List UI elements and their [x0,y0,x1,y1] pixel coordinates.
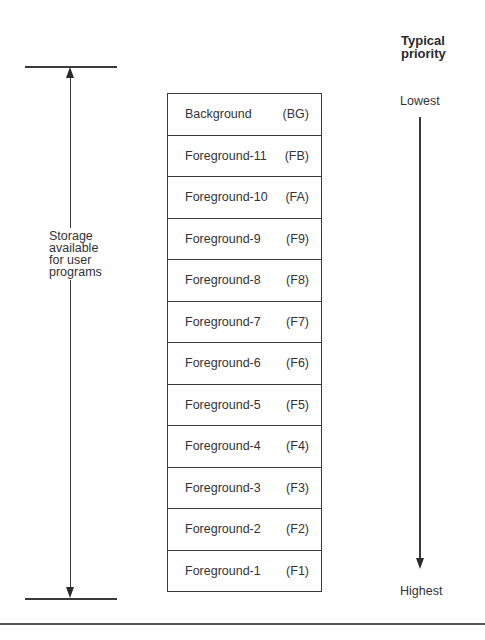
partition-name: Foreground-9 [185,232,261,246]
partition-code: (F3) [286,481,309,495]
priority-column-heading: Typical priority [401,34,446,60]
page-divider [0,623,485,625]
priority-highest-label: Highest [400,584,442,598]
partition-code: (F9) [286,232,309,246]
storage-bracket-vertical-line [70,70,72,594]
partition-name: Foreground-4 [185,439,261,453]
partition-row-fa: Foreground-10 (FA) [168,177,321,219]
partition-row-f8: Foreground-8 (F8) [168,260,321,302]
partition-code: (F8) [286,273,309,287]
partition-row-bg: Background (BG) [168,94,321,136]
arrow-down-icon [416,558,424,569]
partition-code: (F1) [286,564,309,578]
partition-code: (F5) [286,398,309,412]
partition-row-f4: Foreground-4 (F4) [168,426,321,468]
partition-row-f1: Foreground-1 (F1) [168,551,321,592]
storage-label-line4: programs [49,266,102,278]
arrow-up-icon [66,67,74,78]
arrow-down-icon [66,587,74,598]
priority-scale-line [419,117,421,562]
priority-heading-line2: priority [401,47,446,60]
partition-code: (F2) [286,522,309,536]
partition-row-f9: Foreground-9 (F9) [168,219,321,261]
partition-row-f7: Foreground-7 (F7) [168,302,321,344]
storage-label: Storage available for user programs [47,228,104,280]
partition-code: (F6) [286,356,309,370]
partition-name: Foreground-11 [185,149,267,163]
partition-code: (BG) [283,107,309,121]
storage-bracket-bottom-rule [25,598,117,600]
partition-row-f6: Foreground-6 (F6) [168,343,321,385]
partition-name: Background [185,107,252,121]
partition-code: (FA) [285,190,309,204]
partition-name: Foreground-3 [185,481,261,495]
partition-name: Foreground-2 [185,522,261,536]
partition-stack: Background (BG) Foreground-11 (FB) Foreg… [167,93,322,592]
partition-name: Foreground-10 [185,190,268,204]
partition-name: Foreground-1 [185,564,261,578]
partition-row-f3: Foreground-3 (F3) [168,468,321,510]
partition-code: (F7) [286,315,309,329]
partition-code: (FB) [285,149,309,163]
partition-name: Foreground-6 [185,356,261,370]
partition-name: Foreground-7 [185,315,261,329]
partition-row-f2: Foreground-2 (F2) [168,509,321,551]
partition-row-fb: Foreground-11 (FB) [168,136,321,178]
partition-name: Foreground-8 [185,273,261,287]
priority-lowest-label: Lowest [400,94,440,108]
partition-code: (F4) [286,439,309,453]
partition-row-f5: Foreground-5 (F5) [168,385,321,427]
partition-name: Foreground-5 [185,398,261,412]
